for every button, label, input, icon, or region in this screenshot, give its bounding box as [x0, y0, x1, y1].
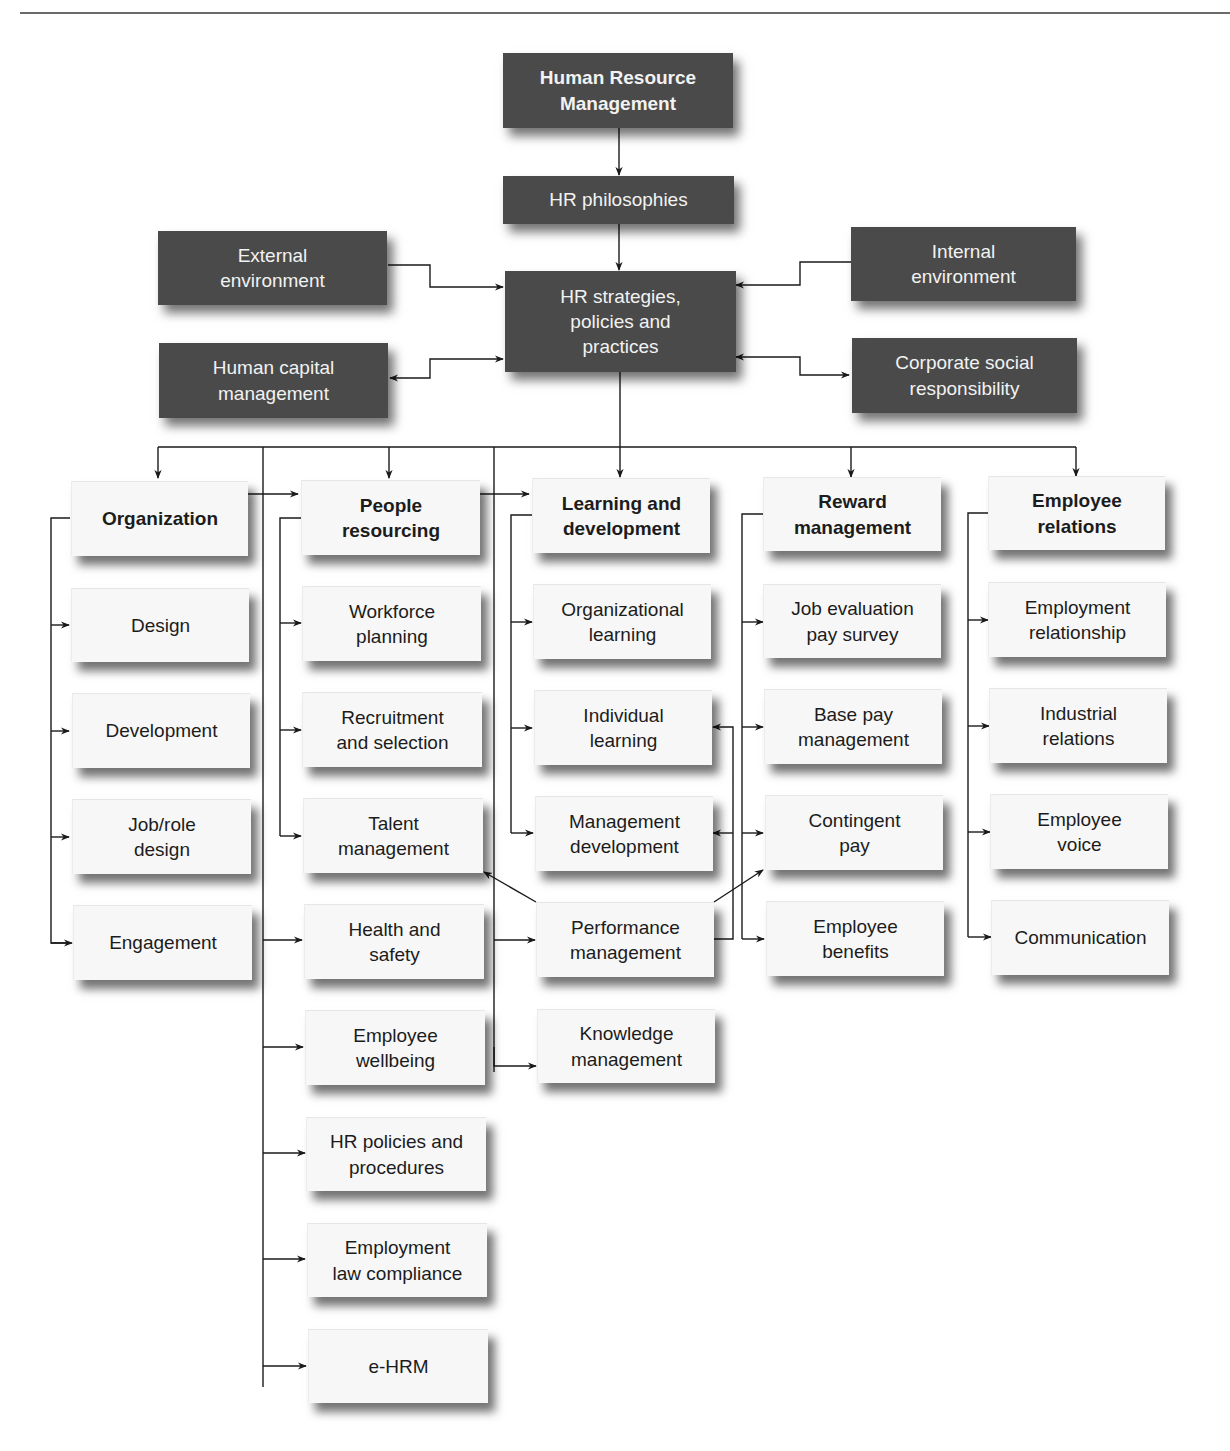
node-hr-philosophies: HR philosophies: [503, 176, 734, 224]
heading-reward-management: Reward management: [763, 477, 941, 551]
node-design: Design: [71, 588, 249, 662]
node-engagement: Engagement: [73, 905, 252, 980]
node-communication: Communication: [991, 900, 1169, 975]
node-corporate-social-responsibility: Corporate social responsibility: [852, 338, 1077, 413]
node-knowledge-management: Knowledge management: [537, 1009, 715, 1083]
node-management-development: Management development: [535, 796, 713, 871]
node-internal-environment: Internal environment: [851, 227, 1076, 301]
node-organizational-learning: Organizational learning: [533, 584, 711, 659]
node-base-pay-management: Base pay management: [764, 689, 942, 764]
node-employment-relationship: Employment relationship: [988, 582, 1166, 657]
heading-learning-and-development: Learning and development: [532, 478, 710, 553]
node-employee-voice: Employee voice: [990, 794, 1168, 869]
node-job-role-design: Job/role design: [72, 799, 251, 874]
node-employment-law-compliance: Employment law compliance: [307, 1223, 487, 1297]
node-human-capital-management: Human capital management: [159, 343, 388, 418]
node-external-environment: External environment: [158, 231, 387, 305]
node-hr-policies-and-procedures: HR policies and procedures: [306, 1117, 486, 1191]
node-recruitment-and-selection: Recruitment and selection: [302, 692, 482, 767]
node-employee-benefits: Employee benefits: [766, 901, 944, 976]
node-development: Development: [72, 693, 250, 768]
node-health-and-safety: Health and safety: [304, 904, 484, 979]
node-performance-management: Performance management: [536, 902, 714, 977]
node-e-hrm: e-HRM: [308, 1329, 488, 1403]
node-employee-wellbeing: Employee wellbeing: [305, 1010, 485, 1085]
node-job-evaluation-pay-survey: Job evaluation pay survey: [763, 584, 941, 658]
node-workforce-planning: Workforce planning: [302, 586, 481, 661]
node-individual-learning: Individual learning: [534, 690, 712, 765]
node-hr-strategies: HR strategies, policies and practices: [505, 271, 736, 372]
node-talent-management: Talent management: [303, 798, 483, 873]
node-human-resource-management: Human Resource Management: [503, 53, 733, 128]
heading-people-resourcing: People resourcing: [301, 480, 480, 555]
heading-employee-relations: Employee relations: [988, 476, 1165, 550]
node-contingent-pay: Contingent pay: [765, 795, 943, 870]
node-industrial-relations: Industrial relations: [989, 688, 1167, 763]
heading-organization: Organization: [71, 481, 248, 556]
